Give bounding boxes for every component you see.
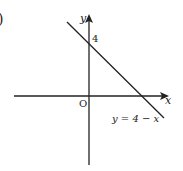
coordinate-diagram: ) y 4 O x y = 4 − x — [0, 0, 183, 171]
part-marker: ) — [0, 11, 3, 27]
line-equation-label: y = 4 − x — [111, 113, 159, 124]
y-axis-label: y — [79, 12, 87, 25]
origin-label: O — [79, 98, 87, 109]
x-axis-label: x — [165, 94, 172, 107]
y-intercept-label: 4 — [92, 33, 98, 44]
